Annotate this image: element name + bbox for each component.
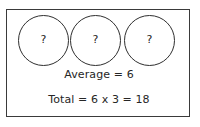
average-equation-text: Average = 6 [7,68,191,81]
circle-unknown-2: ? [70,15,121,66]
circle-group: ? ? ? [7,10,191,70]
circle-unknown-3: ? [124,15,175,66]
circle-unknown-1: ? [18,15,69,66]
question-mark-label: ? [93,34,99,45]
diagram-frame: ? ? ? Average = 6 Total = 6 x 3 = 18 [6,9,190,117]
question-mark-label: ? [147,34,153,45]
total-equation-text: Total = 6 x 3 = 18 [7,93,191,106]
diagram-canvas: ? ? ? Average = 6 Total = 6 x 3 = 18 [0,0,200,127]
equation-block: Average = 6 Total = 6 x 3 = 18 [7,68,191,106]
question-mark-label: ? [41,34,47,45]
